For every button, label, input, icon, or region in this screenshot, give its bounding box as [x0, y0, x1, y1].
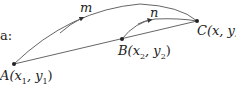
point-a	[12, 62, 16, 66]
intro-fragment: a:	[0, 29, 12, 42]
label-c: C(x, y)	[197, 24, 236, 37]
arrow-m	[60, 18, 82, 33]
arrow-n	[138, 20, 150, 24]
diagram: a: m n A(x1, y1) B(x2, y2) C(x, y)	[0, 0, 236, 89]
label-b: B(x2, y2)	[118, 44, 171, 61]
label-m: m	[80, 1, 92, 14]
point-b	[120, 37, 124, 41]
label-a: A(x1, y1)	[0, 69, 53, 86]
label-n: n	[150, 6, 158, 19]
